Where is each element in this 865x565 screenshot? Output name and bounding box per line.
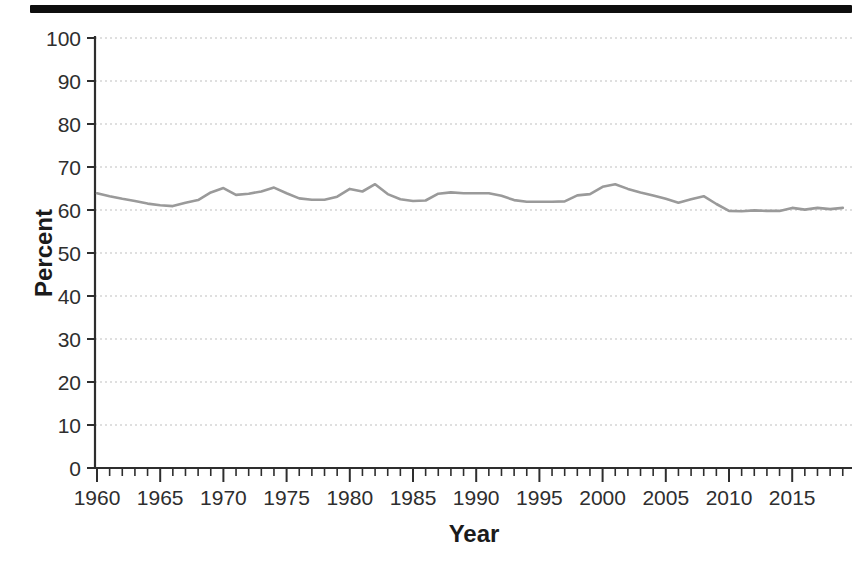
x-axis-title: Year <box>449 520 500 547</box>
x-tick-label: 1985 <box>390 486 437 509</box>
y-tick-label: 100 <box>46 27 81 50</box>
axes <box>93 36 852 468</box>
y-tick-label: 90 <box>58 70 81 93</box>
x-axis-tick-labels: 1960196519701975198019851990199520002005… <box>74 486 816 509</box>
y-tick-label: 80 <box>58 113 81 136</box>
line-chart: 0102030405060708090100 19601965197019751… <box>0 0 865 565</box>
x-tick-label: 1965 <box>137 486 184 509</box>
y-tick-label: 30 <box>58 328 81 351</box>
x-tick-label: 2010 <box>706 486 753 509</box>
y-tick-label: 40 <box>58 285 81 308</box>
x-tick-label: 1990 <box>453 486 500 509</box>
y-axis-title: Percent <box>30 209 57 297</box>
x-tick-label: 1970 <box>200 486 247 509</box>
x-tick-label: 1975 <box>263 486 310 509</box>
y-tick-label: 60 <box>58 199 81 222</box>
x-tick-label: 1995 <box>516 486 563 509</box>
y-tick-label: 0 <box>69 457 81 480</box>
y-tick-label: 70 <box>58 156 81 179</box>
x-tick-label: 2015 <box>769 486 816 509</box>
y-tick-label: 50 <box>58 242 81 265</box>
x-tick-label: 2000 <box>579 486 626 509</box>
x-tick-label: 1980 <box>326 486 373 509</box>
y-tick-label: 20 <box>58 371 81 394</box>
x-tick-label: 2005 <box>642 486 689 509</box>
y-tick-label: 10 <box>58 414 81 437</box>
x-tick-label: 1960 <box>74 486 121 509</box>
x-axis-ticks <box>97 468 843 482</box>
data-line <box>97 184 843 211</box>
gridlines <box>95 38 852 425</box>
y-axis-ticks <box>87 38 95 468</box>
chart-figure: 0102030405060708090100 19601965197019751… <box>0 0 865 565</box>
